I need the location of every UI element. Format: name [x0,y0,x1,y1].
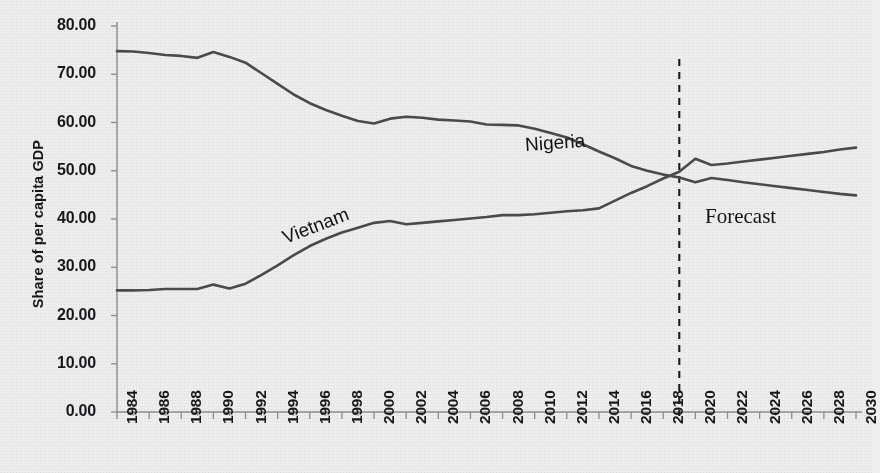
x-tick-label: 2016 [637,390,655,424]
y-tick-label: 40.00 [12,209,96,227]
x-tick-label: 2018 [669,390,687,424]
y-tick-label: 0.00 [12,402,96,420]
x-tick-label: 2010 [541,390,559,424]
x-tick-label: 2024 [766,390,784,424]
x-tick-label: 2030 [862,390,880,424]
y-tick-label: 20.00 [12,306,96,324]
x-tick-label: 1998 [348,390,366,424]
y-tick-label: 50.00 [12,161,96,179]
y-tick-label: 30.00 [12,257,96,275]
x-tick-label: 2012 [573,390,591,424]
x-tick-label: 1986 [155,390,173,424]
x-tick-label: 2006 [476,390,494,424]
x-tick-label: 1984 [123,390,141,424]
series-line-nigeria [117,51,856,195]
x-tick-label: 2026 [798,390,816,424]
x-tick-label: 2008 [509,390,527,424]
x-tick-label: 2022 [733,390,751,424]
y-tick-label: 70.00 [12,64,96,82]
x-tick-label: 1988 [187,390,205,424]
x-tick-label: 2020 [701,390,719,424]
forecast-annotation-label: Forecast [705,204,776,229]
x-tick-label: 1990 [219,390,237,424]
y-tick-label: 60.00 [12,113,96,131]
y-tick-label: 80.00 [12,16,96,34]
x-tick-label: 2014 [605,390,623,424]
x-tick-label: 1992 [252,390,270,424]
x-tick-label: 2000 [380,390,398,424]
x-tick-label: 2004 [444,390,462,424]
y-tick-label: 10.00 [12,354,96,372]
x-tick-label: 1996 [316,390,334,424]
x-tick-label: 1994 [284,390,302,424]
x-tick-label: 2028 [830,390,848,424]
x-tick-label: 2002 [412,390,430,424]
series-label-nigeria: Nigeria [524,130,586,156]
